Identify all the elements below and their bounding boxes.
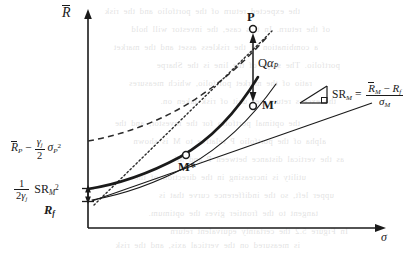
y-tick-label-rp-gamma: RP − γj 2 σP2 bbox=[11, 136, 61, 161]
axes bbox=[84, 9, 386, 232]
slope-triangle-icon bbox=[300, 86, 327, 103]
x-axis-label: σ bbox=[381, 231, 387, 243]
point-M-star-label: M* bbox=[178, 161, 196, 174]
point-M-prime-marker bbox=[250, 103, 257, 110]
figure-canvas bbox=[0, 0, 413, 253]
y-tick-label-half-gamma-sr2: 1 2γj SRM2 bbox=[14, 178, 59, 203]
tangent-ray-to-P bbox=[94, 31, 272, 205]
arrow-head-up bbox=[250, 33, 257, 43]
point-P-label: P bbox=[247, 11, 255, 24]
sharpe-ratio-formula: SRM = RM − Rf σM bbox=[332, 83, 403, 108]
point-M-prime-label: M′ bbox=[262, 99, 277, 112]
y-axis-arrowhead bbox=[84, 9, 92, 19]
point-M-star-marker bbox=[183, 152, 190, 159]
y-tick-label-rf: Rf bbox=[44, 204, 55, 218]
sr-squared-arrow bbox=[82, 185, 94, 204]
q-alpha-p-label: QαP bbox=[258, 57, 278, 71]
arrow-head-down bbox=[85, 197, 91, 205]
point-P-marker bbox=[250, 26, 257, 33]
arrow-head-down bbox=[250, 92, 257, 102]
y-axis-label: R bbox=[62, 6, 71, 20]
capital-market-line bbox=[92, 103, 372, 201]
q-alpha-arrow bbox=[250, 33, 257, 102]
